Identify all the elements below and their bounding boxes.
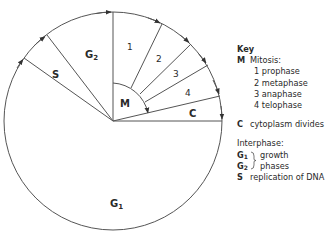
segment-label-prophase: 1 (127, 42, 133, 52)
key-g1: G1growth (237, 150, 324, 161)
mitosis-arc-arrow (113, 83, 148, 113)
segment-label-m: M (120, 98, 130, 109)
key-growth-group: G1growth G2phases (237, 150, 324, 172)
key-phase-2: 2 metaphase (237, 78, 324, 89)
key-heading: Key (237, 44, 324, 55)
key-interphase-heading: Interphase: (237, 138, 324, 149)
key-mitosis: MMitosis: (237, 55, 324, 66)
key-mitosis-label: Mitosis: (250, 55, 281, 65)
segment-label-g1: G1 (110, 198, 123, 211)
key-s: Sreplication of DNA (237, 172, 324, 183)
key-s-label: replication of DNA (250, 172, 324, 182)
key-phase-3: 3 anaphase (237, 89, 324, 100)
segment-label-telophase: 4 (185, 88, 191, 98)
key-cytokinesis: Ccytoplasm divides (237, 119, 324, 130)
segment-label-g2: G2 (85, 49, 98, 62)
key-growth-label-2: phases (250, 161, 289, 171)
key-growth-label-1: growth (250, 150, 289, 160)
segment-label-anaphase: 3 (173, 69, 179, 79)
key-letter-m: M (237, 55, 250, 66)
segment-label-c: C (189, 108, 196, 119)
key-legend: Key MMitosis: 1 prophase 2 metaphase 3 a… (237, 44, 324, 183)
key-g2: G2phases (237, 161, 324, 172)
segment-label-s: S (52, 69, 59, 80)
key-cytokinesis-label: cytoplasm divides (250, 119, 324, 129)
key-phase-4: 4 telophase (237, 100, 324, 111)
key-phase-1: 1 prophase (237, 66, 324, 77)
segment-label-metaphase: 2 (156, 54, 162, 64)
key-letter-c: C (237, 119, 250, 130)
key-letter-s: S (237, 172, 250, 183)
